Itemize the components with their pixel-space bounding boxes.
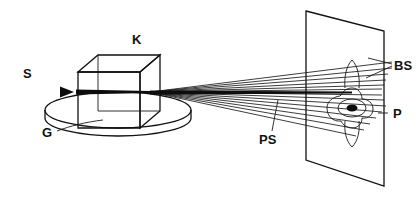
- laue-diffraction-diagram: S K G PS BS P: [0, 0, 419, 197]
- leader-bs-lower: [366, 66, 392, 78]
- label-diffracted-rays: PS: [259, 132, 277, 147]
- label-pattern: BS: [394, 58, 412, 73]
- leader-ps: [272, 100, 278, 131]
- label-crystal: K: [132, 32, 142, 47]
- label-plate: P: [393, 106, 402, 121]
- incident-beam-arrow: [22, 87, 150, 98]
- diagram-canvas: S K G PS BS P: [0, 0, 419, 197]
- label-source: S: [23, 66, 32, 81]
- label-disc: G: [42, 125, 52, 140]
- goniometer-disc: [45, 92, 191, 136]
